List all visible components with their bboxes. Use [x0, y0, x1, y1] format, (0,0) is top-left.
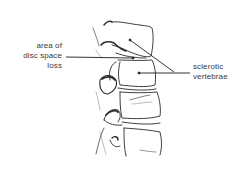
vertebra-1 — [112, 22, 153, 57]
leader-sclerotic-1 — [130, 40, 174, 72]
label-line: area of — [18, 41, 62, 51]
label-line: vertebrae — [193, 72, 228, 82]
sclerotic-vertebrae-label: sclerotic vertebrae — [193, 62, 228, 82]
label-line: loss — [18, 61, 62, 71]
vertebrae-illustration — [0, 0, 245, 178]
disc-space-loss-label: area of disc space loss — [18, 41, 62, 71]
leader-disc-space — [66, 57, 133, 58]
vertebra-3 — [120, 92, 160, 119]
label-line: disc space — [18, 51, 62, 61]
vertebra-4 — [124, 128, 162, 155]
spine-diagram: area of disc space loss sclerotic verteb… — [0, 0, 245, 178]
label-line: sclerotic — [193, 62, 228, 72]
